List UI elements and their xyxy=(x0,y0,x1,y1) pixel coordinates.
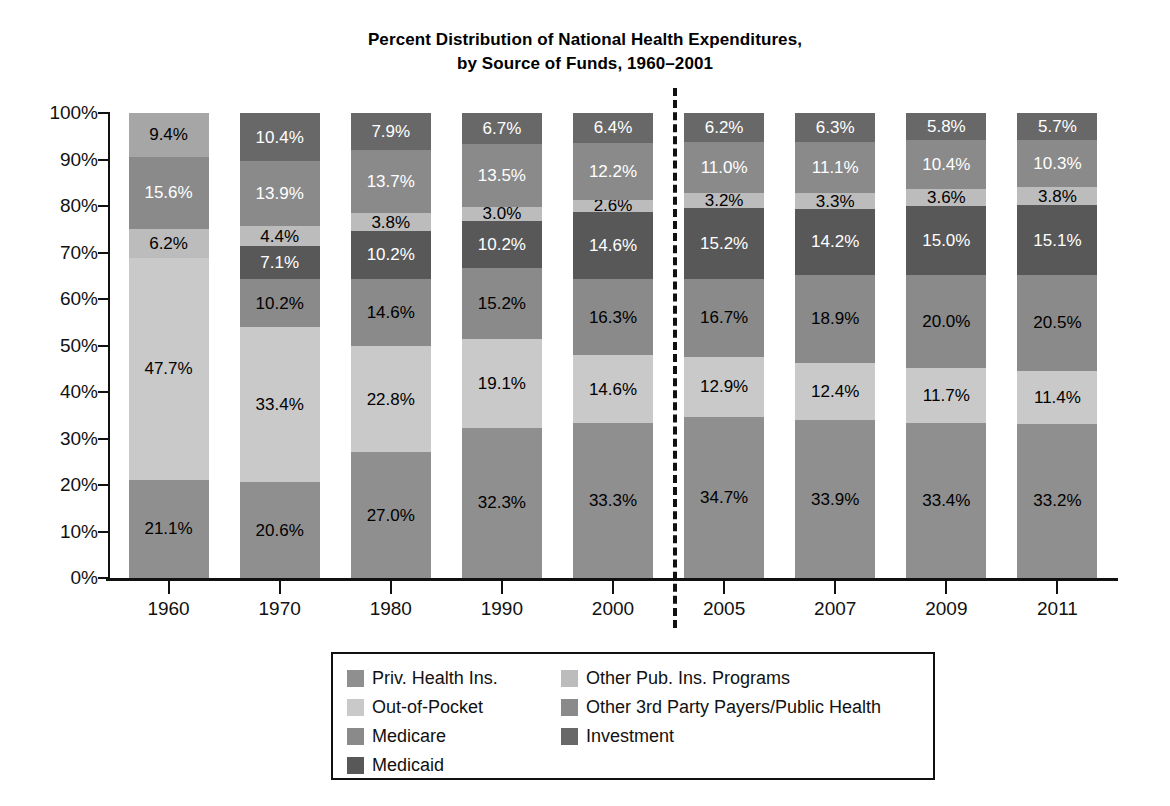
bar-segment[interactable]: 11.1% xyxy=(795,142,875,194)
bar-1990[interactable]: 32.3%19.1%15.2%10.2%3.0%13.5%6.7% xyxy=(462,113,542,578)
bar-segment[interactable]: 13.7% xyxy=(351,150,431,214)
bar-segment-value-label: 15.6% xyxy=(144,184,192,201)
bar-segment-value-label: 10.2% xyxy=(367,246,415,263)
bar-segment[interactable]: 32.3% xyxy=(462,428,542,578)
bar-2005[interactable]: 34.7%12.9%16.7%15.2%3.2%11.0%6.2% xyxy=(684,113,764,578)
bar-segment[interactable]: 13.9% xyxy=(240,161,320,226)
bar-segment[interactable]: 21.1% xyxy=(129,480,209,578)
legend-item-out_of_pocket[interactable]: Out-of-Pocket xyxy=(347,693,557,721)
bar-segment[interactable]: 20.0% xyxy=(906,275,986,368)
bar-segment[interactable]: 11.0% xyxy=(684,142,764,193)
bar-segment[interactable]: 6.4% xyxy=(573,113,653,143)
bar-segment[interactable]: 11.7% xyxy=(906,368,986,422)
bar-segment[interactable]: 15.6% xyxy=(129,157,209,230)
bar-segment[interactable]: 34.7% xyxy=(684,417,764,578)
bar-segment-value-label: 3.6% xyxy=(927,189,966,206)
bar-2007[interactable]: 33.9%12.4%18.9%14.2%3.3%11.1%6.3% xyxy=(795,113,875,578)
bar-segment[interactable]: 14.6% xyxy=(573,355,653,423)
bar-segment-value-label: 3.2% xyxy=(705,193,744,208)
bar-segment-value-label: 11.4% xyxy=(1034,389,1081,406)
bar-segment[interactable]: 12.4% xyxy=(795,363,875,421)
bar-segment[interactable]: 10.2% xyxy=(240,279,320,326)
bar-segment[interactable]: 3.8% xyxy=(1017,187,1097,205)
bar-segment[interactable]: 10.4% xyxy=(240,113,320,161)
bar-segment[interactable]: 14.2% xyxy=(795,209,875,275)
bar-segment[interactable]: 33.4% xyxy=(240,327,320,482)
legend-item-priv_health_ins[interactable]: Priv. Health Ins. xyxy=(347,664,557,692)
bar-segment[interactable]: 22.8% xyxy=(351,346,431,452)
bar-segment[interactable]: 14.6% xyxy=(351,279,431,347)
bar-segment[interactable]: 3.8% xyxy=(351,213,431,231)
bar-segment[interactable]: 3.0% xyxy=(462,207,542,221)
bar-segment[interactable]: 3.2% xyxy=(684,193,764,208)
bar-segment[interactable]: 10.2% xyxy=(462,221,542,268)
bar-segment[interactable]: 6.2% xyxy=(684,113,764,142)
bar-segment-value-label: 14.6% xyxy=(589,237,637,254)
bar-segment-value-label: 7.9% xyxy=(371,123,410,140)
bar-segment[interactable]: 5.7% xyxy=(1017,113,1097,140)
bar-segment[interactable]: 16.7% xyxy=(684,279,764,357)
bar-segment[interactable]: 33.2% xyxy=(1017,424,1097,578)
bar-segment[interactable]: 18.9% xyxy=(795,275,875,363)
bar-segment-value-label: 12.9% xyxy=(700,378,748,395)
bar-segment[interactable]: 33.3% xyxy=(573,423,653,578)
bar-segment[interactable]: 15.2% xyxy=(462,268,542,339)
legend-item-other_3rd_party[interactable]: Other 3rd Party Payers/Public Health xyxy=(561,693,931,721)
bar-segment[interactable]: 14.6% xyxy=(573,212,653,280)
bar-segment-value-label: 15.1% xyxy=(1033,232,1081,249)
bar-segment[interactable]: 19.1% xyxy=(462,339,542,428)
legend-swatch-icon xyxy=(561,670,578,687)
bar-segment[interactable]: 10.3% xyxy=(1017,140,1097,188)
legend-item-medicare[interactable]: Medicare xyxy=(347,722,557,750)
bar-segment[interactable]: 3.3% xyxy=(795,193,875,208)
bar-segment[interactable]: 2.6% xyxy=(573,200,653,212)
x-axis-tick-label: 1960 xyxy=(114,598,224,620)
bar-segment[interactable]: 6.2% xyxy=(129,229,209,258)
bar-2000[interactable]: 33.3%14.6%16.3%14.6%2.6%12.2%6.4% xyxy=(573,113,653,578)
bar-segment[interactable]: 4.4% xyxy=(240,226,320,246)
bar-segment[interactable]: 15.1% xyxy=(1017,205,1097,275)
bar-segment[interactable]: 16.3% xyxy=(573,279,653,355)
bar-segment[interactable]: 3.6% xyxy=(906,189,986,206)
bar-segment-value-label: 33.2% xyxy=(1033,492,1081,509)
y-axis-tick xyxy=(98,345,110,347)
bar-segment-value-label: 47.7% xyxy=(144,360,192,377)
bar-segment[interactable]: 12.9% xyxy=(684,357,764,417)
bar-1970[interactable]: 20.6%33.4%10.2%7.1%4.4%13.9%10.4% xyxy=(240,113,320,578)
bar-2009[interactable]: 33.4%11.7%20.0%15.0%3.6%10.4%5.8% xyxy=(906,113,986,578)
x-axis-tick-label: 2000 xyxy=(558,598,668,620)
bar-segment[interactable]: 10.2% xyxy=(351,231,431,278)
bar-segment[interactable]: 7.1% xyxy=(240,246,320,279)
bar-segment[interactable]: 20.5% xyxy=(1017,275,1097,370)
bar-segment[interactable]: 6.7% xyxy=(462,113,542,144)
bar-segment[interactable]: 6.3% xyxy=(795,113,875,142)
bar-segment[interactable]: 47.7% xyxy=(129,258,209,480)
bar-segment[interactable]: 15.2% xyxy=(684,208,764,279)
y-axis-tick xyxy=(98,391,110,393)
bar-segment[interactable]: 15.0% xyxy=(906,206,986,276)
bar-1960[interactable]: 21.1%47.7%6.2%15.6%9.4% xyxy=(129,113,209,578)
y-axis-tick-label: 20% xyxy=(20,475,98,494)
bar-segment-value-label: 10.2% xyxy=(256,295,304,312)
bar-segment[interactable]: 33.4% xyxy=(906,423,986,578)
bar-2011[interactable]: 33.2%11.4%20.5%15.1%3.8%10.3%5.7% xyxy=(1017,113,1097,578)
legend-item-investment[interactable]: Investment xyxy=(561,722,931,750)
bar-segment[interactable]: 5.8% xyxy=(906,113,986,140)
bar-segment[interactable]: 20.6% xyxy=(240,482,320,578)
bar-segment[interactable]: 27.0% xyxy=(351,452,431,578)
y-axis-tick-label: 90% xyxy=(20,150,98,169)
bar-segment[interactable]: 10.4% xyxy=(906,140,986,188)
bar-1980[interactable]: 27.0%22.8%14.6%10.2%3.8%13.7%7.9% xyxy=(351,113,431,578)
bar-segment[interactable]: 12.2% xyxy=(573,143,653,200)
bar-segment[interactable]: 11.4% xyxy=(1017,371,1097,424)
bar-segment-value-label: 27.0% xyxy=(367,507,415,524)
bar-segment-value-label: 3.8% xyxy=(371,214,410,231)
bar-segment[interactable]: 9.4% xyxy=(129,113,209,157)
bar-segment[interactable]: 13.5% xyxy=(462,144,542,207)
legend-item-medicaid[interactable]: Medicaid xyxy=(347,751,557,779)
bar-segment[interactable]: 7.9% xyxy=(351,113,431,150)
bar-segment-value-label: 15.0% xyxy=(922,232,970,249)
x-axis-tick xyxy=(723,581,725,594)
legend-item-other_pub_ins[interactable]: Other Pub. Ins. Programs xyxy=(561,664,931,692)
bar-segment[interactable]: 33.9% xyxy=(795,420,875,578)
